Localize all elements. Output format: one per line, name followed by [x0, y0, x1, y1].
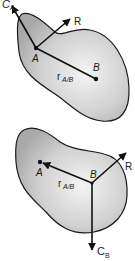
- label-r-bottom: R: [125, 161, 132, 172]
- point-a-bottom: [38, 160, 42, 164]
- label-ca-main: C: [2, 0, 10, 10]
- label-point-b-top: B: [93, 62, 100, 73]
- rigid-body-diagram: C A R A B r A/B R A B r A/B C B: [0, 0, 135, 261]
- top-figure: C A R A B r A/B: [2, 0, 129, 121]
- point-b-bottom: [90, 181, 93, 184]
- label-point-b-bottom: B: [90, 169, 97, 180]
- label-point-a-top: A: [31, 53, 39, 64]
- point-b-top: [94, 77, 98, 81]
- label-r-top: R: [74, 16, 81, 27]
- rigid-body-shape-bottom: [16, 128, 127, 233]
- bottom-figure: R A B r A/B C B: [16, 128, 133, 259]
- point-a-top: [34, 46, 38, 50]
- label-rab-sub-top: A/B: [61, 76, 74, 83]
- label-rab-sub-bottom: A/B: [62, 183, 75, 190]
- label-ca-sub: A: [9, 4, 15, 11]
- label-point-a-bottom: A: [35, 167, 43, 178]
- label-cb-main: C: [97, 245, 105, 257]
- label-cb-sub: B: [105, 252, 110, 259]
